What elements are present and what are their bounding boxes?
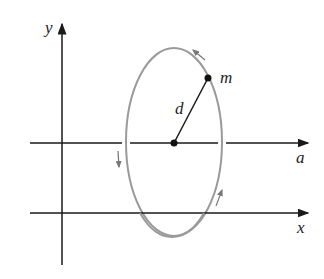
x-axis-label: x bbox=[296, 218, 305, 237]
rotation-arrow-right bbox=[216, 190, 222, 206]
distance-label: d bbox=[175, 99, 184, 118]
rotation-diagram: y a x m d bbox=[0, 0, 324, 279]
axis-point bbox=[171, 140, 178, 147]
a-axis-label: a bbox=[296, 148, 305, 167]
orbit-front-segment bbox=[140, 213, 204, 237]
y-axis-label: y bbox=[43, 18, 53, 37]
mass-point bbox=[205, 75, 212, 82]
rotation-arrow-left bbox=[118, 151, 119, 167]
mass-label: m bbox=[220, 68, 232, 87]
